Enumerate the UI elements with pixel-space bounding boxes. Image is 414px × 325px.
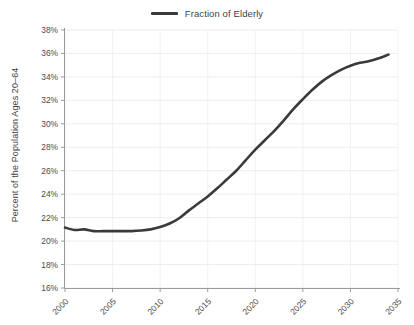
chart-plot-area: 16%18%20%22%24%26%28%30%32%34%36%38% 200… (0, 0, 414, 325)
y-tick-label: 20% (41, 236, 58, 246)
y-tick-label: 26% (41, 166, 58, 176)
y-tick-label: 38% (41, 25, 58, 35)
y-tick-label: 18% (41, 260, 58, 270)
y-tick-label: 36% (41, 48, 58, 58)
x-tick-label: 2030 (336, 296, 356, 316)
x-tick-label: 2015 (193, 296, 213, 316)
y-tick-label: 16% (41, 283, 58, 293)
vertical-gridlines (65, 30, 398, 288)
x-tick-label: 2035 (383, 296, 403, 316)
x-tick-label: 2020 (240, 296, 260, 316)
y-tick-label: 32% (41, 95, 58, 105)
chart-container: Fraction of Elderly Percent of the Popul… (0, 0, 414, 325)
x-tick-label: 2025 (288, 296, 308, 316)
y-tick-label: 34% (41, 72, 58, 82)
y-tick-label: 24% (41, 189, 58, 199)
series-line-fraction-of-elderly (65, 55, 388, 232)
horizontal-gridlines (65, 30, 398, 288)
x-tick-label: 2000 (50, 296, 70, 316)
y-axis-tick-labels: 16%18%20%22%24%26%28%30%32%34%36%38% (41, 25, 58, 293)
x-tick-label: 2010 (145, 296, 165, 316)
y-tick-label: 30% (41, 119, 58, 129)
x-axis-tick-labels: 20002005201020152020202520302035 (50, 296, 403, 316)
y-tick-label: 28% (41, 142, 58, 152)
y-tick-label: 22% (41, 213, 58, 223)
x-tick-label: 2005 (98, 296, 118, 316)
